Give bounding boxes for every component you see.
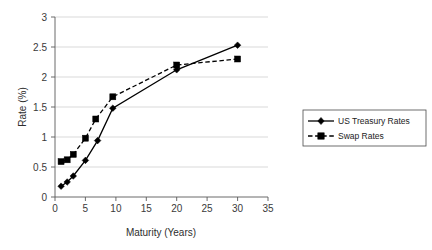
x-axis-title: Maturity (Years) <box>126 227 196 238</box>
x-tick-label-35: 35 <box>262 203 274 214</box>
y-tick-label-1-5: 1.5 <box>33 102 47 113</box>
data-point-square <box>174 62 180 68</box>
x-tick-label-10: 10 <box>110 203 122 214</box>
y-axis-title: Rate (%) <box>17 87 28 126</box>
x-tick-label-30: 30 <box>232 203 244 214</box>
x-tick-label-5: 5 <box>83 203 89 214</box>
data-point-square <box>235 56 241 62</box>
y-tick-label-0: 0 <box>41 192 47 203</box>
y-tick-label-0-5: 0.5 <box>33 162 47 173</box>
y-tick-label-2-5: 2.5 <box>33 42 47 53</box>
y-tick-label-1: 1 <box>41 132 47 143</box>
legend-label-swap-rates: Swap Rates <box>338 131 384 141</box>
x-tick-label-15: 15 <box>141 203 153 214</box>
data-point-square <box>64 157 70 163</box>
y-tick-label-2: 2 <box>41 72 47 83</box>
y-tick-label-3: 3 <box>41 12 47 23</box>
data-point-square <box>82 135 88 141</box>
legend[interactable]: US Treasury Rates Swap Rates <box>303 110 426 146</box>
legend-label-us-treasury-rates: US Treasury Rates <box>338 116 410 126</box>
data-point-square <box>70 151 76 157</box>
x-tick-label-25: 25 <box>202 203 214 214</box>
chart-canvas: 3 2.5 2 1.5 1 0.5 0 0 5 10 15 20 25 30 3… <box>0 0 432 250</box>
data-point-square <box>58 159 64 165</box>
data-point-square <box>93 116 99 122</box>
square-marker-icon <box>318 133 324 139</box>
data-point-square <box>110 94 116 100</box>
x-tick-label-20: 20 <box>171 203 183 214</box>
x-tick-label-0: 0 <box>52 203 58 214</box>
rates-line-chart: 3 2.5 2 1.5 1 0.5 0 0 5 10 15 20 25 30 3… <box>0 0 432 250</box>
